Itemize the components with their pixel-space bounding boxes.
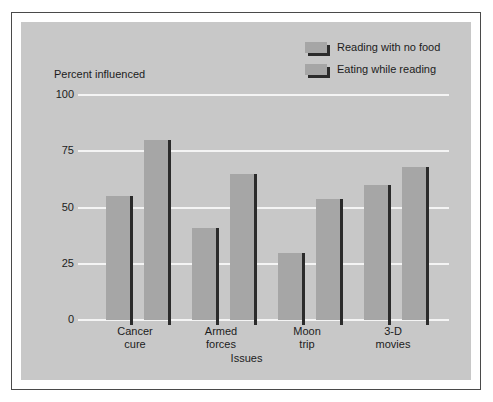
legend-item: Reading with no food — [305, 36, 440, 58]
gridline — [78, 207, 449, 209]
x-axis-tick-text: cure — [92, 338, 178, 351]
y-axis-tick-text: 75 — [40, 145, 74, 156]
x-axis-tick-label: Armedforces — [178, 325, 264, 351]
chart-legend: Reading with no food Eating while readin… — [305, 36, 440, 80]
x-axis-title: Issues — [0, 352, 493, 364]
x-axis-tick-label: Moontrip — [264, 325, 350, 351]
y-axis-tick-text: 50 — [40, 202, 74, 213]
bar — [144, 140, 168, 320]
legend-label: Reading with no food — [337, 41, 440, 53]
gridline — [78, 263, 449, 265]
bar — [278, 253, 302, 321]
legend-swatch-eating-while-reading — [305, 64, 327, 75]
legend-label: Eating while reading — [337, 63, 436, 75]
y-axis-tick-label: 100 — [36, 89, 74, 100]
x-axis-tick-label: 3-Dmovies — [350, 325, 436, 351]
gridline — [78, 94, 449, 96]
bar — [106, 196, 130, 320]
x-axis-tick-text: forces — [178, 338, 264, 351]
chart-figure: Percent influenced 0255075100 Cancercure… — [0, 0, 493, 402]
y-axis-title: Percent influenced — [54, 68, 145, 80]
y-axis-tick-label: 25 — [36, 258, 74, 269]
x-axis-tick-text: Cancer — [92, 325, 178, 338]
bar — [364, 185, 388, 320]
x-axis-tick-label: Cancercure — [92, 325, 178, 351]
y-axis-tick-label: 75 — [36, 145, 74, 156]
x-axis-tick-text: Moon — [264, 325, 350, 338]
bar — [402, 167, 426, 320]
legend-item: Eating while reading — [305, 58, 440, 80]
bar — [192, 228, 216, 320]
bar — [316, 199, 340, 321]
x-axis-tick-text: Armed — [178, 325, 264, 338]
plot-area: Percent influenced 0255075100 Cancercure… — [0, 0, 493, 402]
gridline — [78, 319, 449, 321]
x-axis-tick-text: movies — [350, 338, 436, 351]
y-axis-tick-label: 50 — [36, 202, 74, 213]
gridline — [78, 150, 449, 152]
x-axis-tick-text: 3-D — [350, 325, 436, 338]
x-axis-tick-text: trip — [264, 338, 350, 351]
y-axis-tick-text: 100 — [40, 89, 74, 100]
y-axis-tick-text: 0 — [40, 314, 74, 325]
legend-swatch-reading-with-no-food — [305, 42, 327, 53]
y-axis-tick-label: 0 — [36, 314, 74, 325]
y-axis-tick-text: 25 — [40, 258, 74, 269]
bar — [230, 174, 254, 320]
